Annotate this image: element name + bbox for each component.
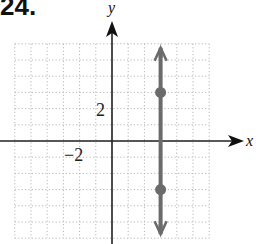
y-axis-label: y <box>106 0 116 17</box>
axes: x y 2 −2 <box>0 0 253 244</box>
coordinate-plane: x y 2 −2 <box>0 0 258 244</box>
x-axis-label: x <box>245 132 253 149</box>
data-point <box>155 184 166 195</box>
data-point <box>155 87 166 98</box>
x-tick-label-neg2: −2 <box>64 145 83 165</box>
y-tick-label-2: 2 <box>96 100 105 120</box>
